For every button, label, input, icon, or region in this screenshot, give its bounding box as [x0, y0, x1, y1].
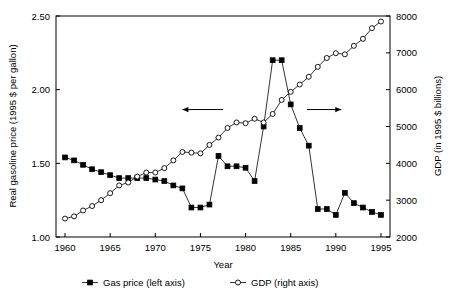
data-point-marker	[315, 64, 320, 69]
legend-marker-filled-square	[88, 280, 93, 285]
chart-legend: Gas price (left axis)GDP (right axis)	[82, 277, 318, 288]
arrow-head	[335, 107, 341, 112]
y-tick-label: 1.00	[32, 232, 51, 243]
data-point-marker	[189, 205, 194, 210]
data-point-marker	[144, 176, 149, 181]
data-point-marker	[252, 116, 257, 121]
data-point-marker	[261, 120, 266, 125]
data-point-marker	[180, 186, 185, 191]
data-point-marker	[81, 162, 86, 167]
data-point-marker	[306, 143, 311, 148]
x-tick-label: 1975	[190, 242, 211, 253]
x-tick-label: 1970	[145, 242, 166, 253]
y2-tick-label: 7000	[396, 47, 417, 58]
data-point-marker	[81, 208, 86, 213]
annotation-arrows	[182, 107, 341, 112]
series-2	[63, 19, 384, 221]
data-point-marker	[225, 125, 230, 130]
legend-label: Gas price (left axis)	[103, 277, 185, 288]
data-point-marker	[378, 19, 383, 24]
data-point-marker	[324, 207, 329, 212]
data-point-marker	[153, 177, 158, 182]
data-point-marker	[288, 102, 293, 107]
data-point-marker	[189, 150, 194, 155]
data-point-marker	[252, 179, 257, 184]
data-point-marker	[306, 74, 311, 79]
data-point-marker	[333, 213, 338, 218]
data-point-marker	[279, 97, 284, 102]
data-point-marker	[63, 216, 68, 221]
data-point-marker	[324, 55, 329, 60]
data-point-marker	[117, 183, 122, 188]
data-point-marker	[360, 36, 365, 41]
plot-frame	[56, 16, 390, 237]
y-tick-label: 1.50	[32, 158, 51, 169]
y-axis-left-title: Real gasoline price (1995 $ per gallon)	[7, 44, 18, 207]
data-point-marker	[297, 126, 302, 131]
data-point-marker	[234, 120, 239, 125]
data-point-marker	[342, 190, 347, 195]
y2-tick-label: 5000	[396, 121, 417, 132]
data-point-marker	[126, 180, 131, 185]
data-point-marker	[342, 52, 347, 57]
data-point-marker	[288, 89, 293, 94]
y-tick-label: 2.00	[32, 84, 51, 95]
data-point-marker	[90, 167, 95, 172]
data-point-marker	[369, 26, 374, 31]
data-point-marker	[162, 179, 167, 184]
data-point-marker	[198, 205, 203, 210]
x-axis-title: Year	[213, 259, 232, 270]
x-tick-label: 1990	[325, 242, 346, 253]
data-point-marker	[207, 142, 212, 147]
data-point-marker	[171, 158, 176, 163]
data-series-group	[63, 19, 384, 221]
data-point-marker	[234, 164, 239, 169]
data-point-marker	[243, 121, 248, 126]
x-axis-ticks: 19601965197019751980198519901995	[54, 233, 391, 253]
data-point-marker	[225, 164, 230, 169]
data-point-marker	[243, 165, 248, 170]
legend-item-2: GDP (right axis)	[230, 277, 318, 288]
legend-item-1: Gas price (left axis)	[82, 277, 185, 288]
data-point-marker	[361, 205, 366, 210]
data-point-marker	[171, 183, 176, 188]
x-tick-label: 1985	[280, 242, 301, 253]
y2-tick-label: 3000	[396, 195, 417, 206]
x-tick-label: 1980	[235, 242, 256, 253]
data-point-marker	[72, 158, 77, 163]
left-arrow	[182, 107, 223, 112]
data-point-marker	[216, 135, 221, 140]
data-point-marker	[63, 155, 68, 160]
y-axis-right-title: GDP (in 1995 $ billions)	[432, 76, 443, 176]
data-point-marker	[270, 58, 275, 63]
data-point-marker	[108, 191, 113, 196]
legend-label: GDP (right axis)	[251, 277, 318, 288]
legend-marker-open-circle	[236, 280, 241, 285]
x-tick-label: 1965	[100, 242, 121, 253]
data-point-marker	[279, 58, 284, 63]
data-point-marker	[144, 170, 149, 175]
data-point-marker	[207, 202, 212, 207]
data-point-marker	[117, 176, 122, 181]
y-axis-right-ticks: 2000300040005000600070008000	[386, 11, 417, 243]
y2-tick-label: 8000	[396, 11, 417, 22]
x-tick-label: 1995	[370, 242, 391, 253]
data-point-marker	[351, 201, 356, 206]
data-point-marker	[351, 43, 356, 48]
data-point-marker	[180, 149, 185, 154]
data-point-marker	[270, 111, 275, 116]
data-point-marker	[108, 173, 113, 178]
right-arrow	[307, 107, 341, 112]
data-point-marker	[153, 170, 158, 175]
y-tick-label: 2.50	[32, 11, 51, 22]
data-point-marker	[135, 174, 140, 179]
data-point-marker	[90, 204, 95, 209]
data-point-marker	[297, 82, 302, 87]
y2-tick-label: 4000	[396, 158, 417, 169]
data-point-marker	[99, 198, 104, 203]
chart-svg: 19601965197019751980198519901995 1.001.5…	[0, 0, 456, 299]
data-point-marker	[333, 51, 338, 56]
chart-figure: 19601965197019751980198519901995 1.001.5…	[0, 0, 456, 299]
data-point-marker	[216, 154, 221, 159]
x-tick-label: 1960	[54, 242, 75, 253]
